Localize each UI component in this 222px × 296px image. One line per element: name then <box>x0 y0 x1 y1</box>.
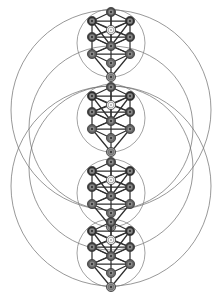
sephira-center-dot <box>91 246 93 248</box>
sephira-daath[interactable]: Daath <box>106 175 115 184</box>
sephira-chokmah[interactable]: Chokmah <box>125 166 134 175</box>
sephira-hod[interactable]: Hod <box>87 259 96 268</box>
sephira-malkuth[interactable]: Malkuth <box>106 282 115 291</box>
sephira-center-dot <box>91 186 93 188</box>
four-worlds-tree-svg: KeterChokmahBinahDaathChesedGeburahTifer… <box>0 0 222 296</box>
sephira-center-dot <box>91 20 93 22</box>
sephira-keter[interactable]: Keter <box>106 217 115 226</box>
sephira-chesed[interactable]: Chesed <box>125 242 134 251</box>
sephira-tiferet[interactable]: Tiferet <box>106 251 115 260</box>
sephira-center-dot <box>91 128 93 130</box>
sephira-malkuth[interactable]: Malkuth <box>106 147 115 156</box>
sephira-netzach[interactable]: Netzach <box>125 124 134 133</box>
sephira-chesed[interactable]: Chesed <box>125 32 134 41</box>
sephira-daath[interactable]: Daath <box>106 100 115 109</box>
sephira-geburah[interactable]: Geburah <box>87 242 96 251</box>
sephira-center-dot <box>110 255 112 257</box>
sephira-chokmah[interactable]: Chokmah <box>125 16 134 25</box>
sephira-center-dot <box>129 186 131 188</box>
sephira-center-dot <box>110 179 112 181</box>
sephira-malkuth[interactable]: Malkuth <box>106 72 115 81</box>
sephira-center-dot <box>91 203 93 205</box>
sephira-keter[interactable]: Keter <box>106 157 115 166</box>
sephira-center-dot <box>110 29 112 31</box>
sephira-center-dot <box>91 53 93 55</box>
sephira-geburah[interactable]: Geburah <box>87 32 96 41</box>
sephira-center-dot <box>129 53 131 55</box>
sephira-yesod[interactable]: Yesod <box>106 268 115 277</box>
sephira-chesed[interactable]: Chesed <box>125 107 134 116</box>
sephira-center-dot <box>110 161 112 163</box>
sephira-center-dot <box>129 170 131 172</box>
sephira-netzach[interactable]: Netzach <box>125 199 134 208</box>
sephira-binah[interactable]: Binah <box>87 16 96 25</box>
sephira-yesod[interactable]: Yesod <box>106 133 115 142</box>
sephira-yesod[interactable]: Yesod <box>106 208 115 217</box>
trees-group: KeterChokmahBinahDaathChesedGeburahTifer… <box>87 7 134 291</box>
sephira-center-dot <box>110 286 112 288</box>
sephira-geburah[interactable]: Geburah <box>87 182 96 191</box>
sephira-center-dot <box>91 95 93 97</box>
sephira-keter[interactable]: Keter <box>106 82 115 91</box>
sephira-yesod[interactable]: Yesod <box>106 58 115 67</box>
sephira-tiferet[interactable]: Tiferet <box>106 191 115 200</box>
sephira-center-dot <box>110 86 112 88</box>
sephira-center-dot <box>110 221 112 223</box>
sephira-binah[interactable]: Binah <box>87 226 96 235</box>
sephira-center-dot <box>91 36 93 38</box>
sephira-binah[interactable]: Binah <box>87 166 96 175</box>
sephira-chokmah[interactable]: Chokmah <box>125 226 134 235</box>
sephira-center-dot <box>110 137 112 139</box>
sephira-netzach[interactable]: Netzach <box>125 49 134 58</box>
sephira-center-dot <box>129 246 131 248</box>
tree-of-life-atziluth: KeterChokmahBinahDaathChesedGeburahTifer… <box>87 7 134 81</box>
sephira-center-dot <box>110 45 112 47</box>
sephira-tiferet[interactable]: Tiferet <box>106 116 115 125</box>
tree-of-life-briah: KeterChokmahBinahDaathChesedGeburahTifer… <box>87 82 134 156</box>
sephira-center-dot <box>91 170 93 172</box>
sephira-daath[interactable]: Daath <box>106 235 115 244</box>
diagram-canvas: KeterChokmahBinahDaathChesedGeburahTifer… <box>0 0 222 296</box>
sephira-center-dot <box>110 76 112 78</box>
sephira-center-dot <box>91 230 93 232</box>
sephira-center-dot <box>129 95 131 97</box>
sephira-center-dot <box>110 212 112 214</box>
sephira-center-dot <box>129 20 131 22</box>
sephira-center-dot <box>129 230 131 232</box>
sephira-hod[interactable]: Hod <box>87 199 96 208</box>
sephira-geburah[interactable]: Geburah <box>87 107 96 116</box>
sephira-center-dot <box>129 263 131 265</box>
sephira-chokmah[interactable]: Chokmah <box>125 91 134 100</box>
sephira-daath[interactable]: Daath <box>106 25 115 34</box>
sephira-binah[interactable]: Binah <box>87 91 96 100</box>
sephira-center-dot <box>91 263 93 265</box>
sephira-center-dot <box>129 111 131 113</box>
sephira-keter[interactable]: Keter <box>106 7 115 16</box>
sephira-center-dot <box>129 203 131 205</box>
sephira-netzach[interactable]: Netzach <box>125 259 134 268</box>
sephira-center-dot <box>110 120 112 122</box>
sephira-chesed[interactable]: Chesed <box>125 182 134 191</box>
sephira-tiferet[interactable]: Tiferet <box>106 41 115 50</box>
sephira-center-dot <box>110 272 112 274</box>
sephira-center-dot <box>110 239 112 241</box>
sephira-center-dot <box>110 195 112 197</box>
sephira-center-dot <box>129 128 131 130</box>
tree-of-life-assiah: KeterChokmahBinahDaathChesedGeburahTifer… <box>87 217 134 291</box>
sephira-hod[interactable]: Hod <box>87 49 96 58</box>
sephira-center-dot <box>129 36 131 38</box>
sephira-center-dot <box>110 104 112 106</box>
sephira-center-dot <box>91 111 93 113</box>
sephira-center-dot <box>110 151 112 153</box>
sephira-center-dot <box>110 11 112 13</box>
sephira-hod[interactable]: Hod <box>87 124 96 133</box>
sephira-center-dot <box>110 62 112 64</box>
